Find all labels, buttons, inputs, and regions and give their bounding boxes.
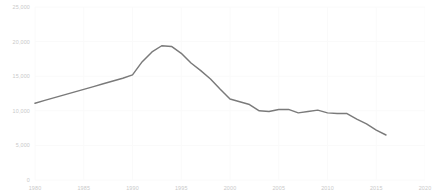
x-axis-tick-label: 1985 xyxy=(72,185,96,191)
x-axis-tick-label: 1980 xyxy=(23,185,47,191)
x-axis-tick-label: 2000 xyxy=(218,185,242,191)
x-axis-tick-label: 1995 xyxy=(169,185,193,191)
x-axis-tick-label: 2015 xyxy=(364,185,388,191)
x-axis-tick-label: 1990 xyxy=(121,185,145,191)
x-axis-tick-label: 2005 xyxy=(267,185,291,191)
x-axis-tick-label: 2020 xyxy=(413,185,436,191)
x-axis-tick-label: 2010 xyxy=(316,185,340,191)
